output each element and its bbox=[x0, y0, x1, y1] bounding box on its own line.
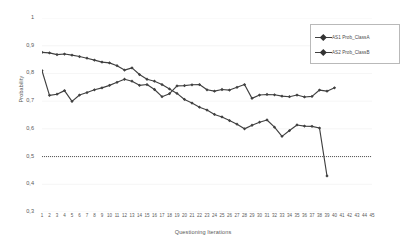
data-point-marker bbox=[310, 125, 313, 128]
x-axis-title: Questioning Iterations bbox=[0, 229, 406, 235]
y-axis-tick-label: 0,9 bbox=[8, 43, 34, 49]
data-point-marker bbox=[183, 84, 186, 87]
data-point-marker bbox=[93, 88, 96, 91]
data-point-marker bbox=[258, 93, 261, 96]
y-axis-tick-label: 0,7 bbox=[8, 98, 34, 104]
legend-label-series-2: AS2 Prob_ClassB bbox=[332, 50, 370, 55]
data-point-marker bbox=[48, 51, 51, 54]
data-point-marker bbox=[100, 60, 103, 63]
data-point-marker bbox=[228, 88, 231, 91]
data-point-marker bbox=[220, 88, 223, 91]
legend-item-series-1: AS1 Prob_ClassA bbox=[315, 30, 396, 45]
data-point-marker bbox=[288, 95, 291, 98]
data-point-marker bbox=[85, 91, 88, 94]
data-point-marker bbox=[85, 57, 88, 60]
data-point-marker bbox=[303, 124, 306, 127]
data-point-marker bbox=[108, 61, 111, 64]
data-point-marker bbox=[235, 86, 238, 89]
y-axis-tick-label: 0,5 bbox=[8, 154, 34, 160]
data-point-marker bbox=[190, 83, 193, 86]
data-point-marker bbox=[123, 78, 126, 81]
data-point-marker bbox=[55, 53, 58, 56]
legend-marker-icon bbox=[315, 49, 332, 56]
y-axis-tick-label: 0,3 bbox=[8, 209, 34, 215]
legend-item-series-2: AS2 Prob_ClassB bbox=[315, 45, 396, 60]
chart-legend: AS1 Prob_ClassA AS2 Prob_ClassB bbox=[310, 24, 400, 64]
data-point-marker bbox=[303, 95, 306, 98]
series-1 bbox=[42, 51, 329, 178]
data-point-marker bbox=[63, 52, 66, 55]
data-point-marker bbox=[325, 90, 328, 93]
data-point-marker bbox=[48, 94, 51, 97]
data-point-marker bbox=[78, 55, 81, 58]
data-point-marker bbox=[333, 86, 336, 89]
data-point-marker bbox=[42, 51, 44, 54]
y-axis-tick-label: 0,8 bbox=[8, 70, 34, 76]
series-2 bbox=[42, 69, 336, 103]
data-point-marker bbox=[70, 54, 73, 57]
x-axis-tick-labels: 1234567891011121314151617181920212223242… bbox=[42, 214, 372, 224]
data-point-marker bbox=[280, 95, 283, 98]
data-point-marker bbox=[93, 59, 96, 62]
data-point-marker bbox=[153, 80, 156, 83]
y-axis-tick-label: 0,6 bbox=[8, 126, 34, 132]
y-axis-tick-label: 0,4 bbox=[8, 181, 34, 187]
y-axis-tick-label: 1 bbox=[8, 15, 34, 21]
chart-container: Probability 0,30,40,50,60,70,80,91 12345… bbox=[0, 0, 406, 251]
data-series-group bbox=[42, 51, 336, 178]
data-point-marker bbox=[108, 84, 111, 87]
data-point-marker bbox=[100, 86, 103, 89]
data-point-marker bbox=[325, 174, 328, 177]
data-point-marker bbox=[115, 81, 118, 84]
series-line bbox=[42, 52, 327, 176]
data-point-marker bbox=[265, 93, 268, 96]
legend-label-series-1: AS1 Prob_ClassA bbox=[332, 35, 370, 40]
data-point-marker bbox=[213, 90, 216, 93]
data-point-marker bbox=[258, 121, 261, 124]
data-point-marker bbox=[295, 93, 298, 96]
legend-marker-icon bbox=[315, 34, 332, 41]
x-axis-tick-label: 45 bbox=[365, 214, 379, 219]
data-point-marker bbox=[273, 93, 276, 96]
